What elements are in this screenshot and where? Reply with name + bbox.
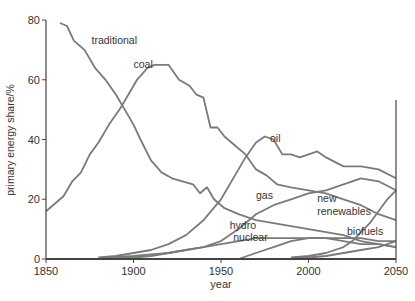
x-axis-label: year [210, 278, 232, 290]
series-label-oil: oil [270, 132, 281, 144]
series-label-new-renewables: renewables [317, 205, 371, 217]
x-tick-label: 2000 [296, 265, 320, 277]
x-tick-label: 1950 [209, 265, 233, 277]
energy-share-chart: traditionalcoaloilgasnewrenewableshydron… [0, 0, 415, 301]
series-label-hydro: hydro [230, 219, 256, 231]
plot-area: traditionalcoaloilgasnewrenewableshydron… [46, 23, 396, 259]
series-label-nuclear: nuclear [233, 231, 268, 243]
x-tick-label: 1900 [121, 265, 145, 277]
y-tick-label: 40 [28, 134, 40, 146]
series-label-new-renewables: new [317, 192, 337, 204]
series-coal [46, 65, 396, 220]
y-tick-label: 20 [28, 193, 40, 205]
y-tick-label: 0 [34, 253, 40, 265]
y-tick-label: 60 [28, 74, 40, 86]
x-tick-label: 1850 [34, 265, 58, 277]
series-label-coal: coal [134, 58, 153, 70]
y-tick-label: 80 [28, 14, 40, 26]
series-label-gas: gas [256, 189, 273, 201]
y-axis-label: primary energy share/% [4, 84, 16, 195]
x-tick-label: 2050 [384, 265, 408, 277]
series-label-traditional: traditional [92, 34, 138, 46]
series-label-biofuels: biofuels [347, 225, 383, 237]
